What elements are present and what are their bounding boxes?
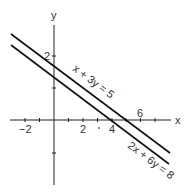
x-tick-label: 6	[137, 107, 143, 119]
line-2x-plus-6y-eq-8	[11, 45, 169, 164]
x-axis-label: x	[175, 114, 181, 126]
x-tick-label: 4	[109, 123, 115, 135]
line-graph: −2 2 4 6 2 x y x + 3y = 5 2x + 6y = 8	[0, 0, 189, 192]
x-tick-label: 2	[80, 123, 86, 135]
line2-label: 2x + 6y = 8	[126, 139, 177, 181]
y-axis-label: y	[51, 9, 57, 21]
x-tick-label: −2	[19, 123, 32, 135]
line-x-plus-3y-eq-5	[11, 34, 170, 153]
